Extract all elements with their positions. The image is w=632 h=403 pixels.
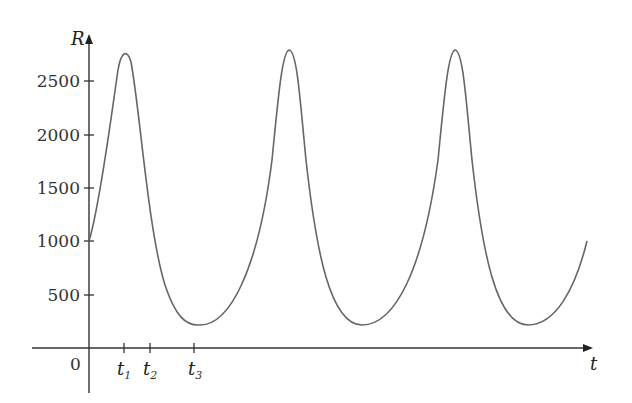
x-tick-labels: t1 t2 t3 (117, 358, 202, 382)
origin-label: 0 (70, 354, 81, 374)
y-tick-2500: 2500 (37, 71, 80, 91)
y-tick-1500: 1500 (37, 178, 80, 198)
chart: 2500 2000 1500 1000 500 t1 t2 t3 0 R t (0, 0, 632, 403)
x-axis-label: t (590, 353, 598, 374)
y-tick-500: 500 (48, 285, 80, 305)
data-curve-R (89, 50, 587, 325)
x-tick-t2: t2 (143, 358, 157, 382)
x-tick-t3: t3 (188, 358, 202, 382)
y-tick-1000: 1000 (37, 231, 80, 251)
x-tick-t1: t1 (117, 358, 131, 382)
y-axis-label: R (70, 28, 85, 49)
y-tick-labels: 2500 2000 1500 1000 500 (37, 71, 80, 305)
y-tick-2000: 2000 (37, 125, 80, 145)
